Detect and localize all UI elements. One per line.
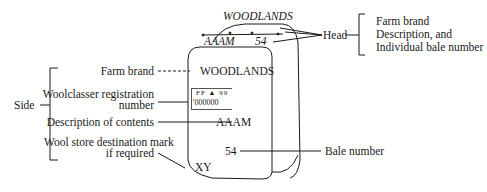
annotation-farm-brand: Farm brand	[101, 65, 154, 78]
bale-number: 54	[225, 145, 237, 158]
bale-number-label: Bale number	[325, 145, 384, 158]
head-label: Head	[323, 29, 347, 42]
head-bale-number: 54	[255, 35, 267, 48]
annotation-woolclasser-2: number	[119, 99, 154, 112]
head-item-description: Description, and	[376, 28, 452, 41]
stencil-bottom: '000000	[193, 98, 218, 107]
bale-description: AAAM	[216, 116, 251, 129]
bale-farm-brand: WOODLANDS	[200, 65, 274, 78]
head-description: AAAM	[204, 35, 235, 48]
head-item-farm-brand: Farm brand	[376, 15, 429, 28]
head-top-brand: WOODLANDS	[223, 10, 293, 23]
head-item-bale-number: Individual bale number	[376, 41, 483, 54]
side-label: Side	[14, 99, 34, 112]
bale-destination: XY	[195, 161, 212, 174]
stencil-top: FF ▲ 99	[196, 89, 228, 97]
annotation-destination-2: if required	[106, 147, 154, 160]
annotation-description: Description of contents	[47, 116, 154, 129]
